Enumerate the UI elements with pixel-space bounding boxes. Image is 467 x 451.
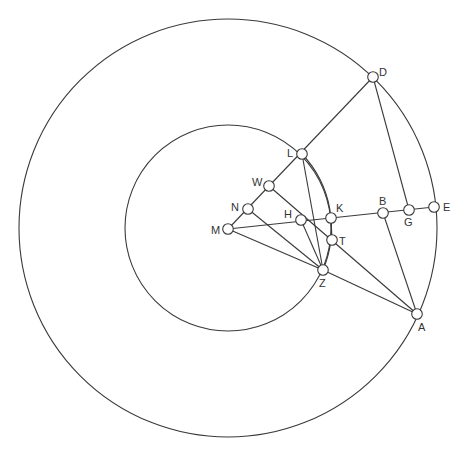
point-E[interactable]: [429, 202, 440, 213]
point-D[interactable]: [368, 72, 379, 83]
point-N[interactable]: [243, 204, 254, 215]
arcs-layer: [302, 154, 331, 270]
point-M[interactable]: [223, 224, 234, 235]
geometry-diagram: DLWNMHKTZBGEA: [0, 0, 467, 451]
point-K[interactable]: [326, 213, 337, 224]
point-B[interactable]: [378, 208, 389, 219]
line-L-Z: [302, 154, 323, 270]
line-Z-A: [323, 270, 417, 314]
label-D: D: [379, 66, 387, 78]
label-H: H: [284, 208, 292, 220]
label-G: G: [404, 216, 413, 228]
point-H[interactable]: [296, 215, 307, 226]
label-Z: Z: [319, 277, 326, 289]
label-K: K: [336, 202, 344, 214]
point-A[interactable]: [412, 309, 423, 320]
point-W[interactable]: [264, 181, 275, 192]
label-A: A: [418, 321, 426, 333]
point-G[interactable]: [404, 205, 415, 216]
label-W: W: [252, 176, 263, 188]
point-T[interactable]: [327, 235, 338, 246]
label-E: E: [443, 201, 450, 213]
labels-layer: DLWNMHKTZBGEA: [211, 66, 450, 333]
label-B: B: [379, 195, 386, 207]
point-Z[interactable]: [318, 265, 329, 276]
label-M: M: [211, 224, 220, 236]
point-L[interactable]: [297, 149, 308, 160]
label-N: N: [231, 201, 239, 213]
label-L: L: [287, 147, 293, 159]
segments-layer: [228, 77, 434, 314]
label-T: T: [339, 235, 346, 247]
arc-L-K-Z: [302, 154, 331, 270]
line-M-Z: [228, 229, 323, 270]
